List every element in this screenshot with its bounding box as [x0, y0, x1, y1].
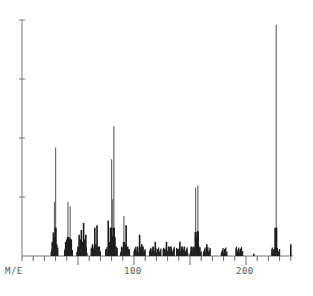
peaks: [51, 25, 291, 256]
mass-spectrum-chart: [0, 0, 313, 296]
axes: [19, 20, 293, 265]
x-tick-label-100: 100: [124, 266, 142, 276]
x-axis-label: M/E: [5, 266, 23, 276]
x-tick-label-200: 200: [236, 266, 254, 276]
